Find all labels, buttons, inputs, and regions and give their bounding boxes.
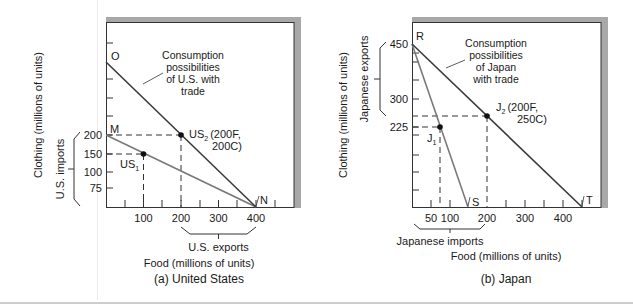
x-tick-labels-japan: 50 100 200 300 400 <box>425 212 572 224</box>
xlabel-us: Food (millions of units) <box>144 257 255 269</box>
svg-text:50: 50 <box>425 212 437 224</box>
bracket-us-exports <box>181 227 256 234</box>
frame-shadow-top <box>412 17 608 22</box>
panel-united-states: O M N US1 US2(200F, 200C) Consumption po… <box>32 17 301 286</box>
figure-canvas: O M N US1 US2(200F, 200C) Consumption po… <box>0 0 633 308</box>
ylabel-japan: Clothing (millions of units) <box>337 52 349 178</box>
svg-text:100: 100 <box>441 212 459 224</box>
svg-text:450: 450 <box>390 38 408 50</box>
svg-text:100: 100 <box>134 212 152 224</box>
svg-text:of Japan: of Japan <box>476 61 516 73</box>
svg-text:300: 300 <box>390 93 408 105</box>
svg-text:possibilities: possibilities <box>166 61 220 73</box>
label-point-r: R <box>416 30 424 42</box>
bracket-japanese-exports <box>380 42 386 116</box>
svg-text:400: 400 <box>554 212 572 224</box>
y-tick-labels-japan: 450 300 225 <box>390 38 408 133</box>
svg-text:Consumption: Consumption <box>465 37 527 49</box>
svg-text:Consumption: Consumption <box>162 49 224 61</box>
point-us2 <box>178 132 184 138</box>
label-us-imports: U.S. imports <box>54 138 66 199</box>
panel-japan: R S T J1 J2(200F, 250C) Consumption poss… <box>337 17 608 286</box>
xlabel-japan: Food (millions of units) <box>451 250 562 262</box>
svg-text:300: 300 <box>516 212 534 224</box>
point-j1 <box>437 124 443 130</box>
label-us2-coords: 200C) <box>212 140 242 152</box>
svg-text:200: 200 <box>172 212 190 224</box>
y-tick-labels-us: 200 150 100 75 <box>84 129 102 194</box>
label-point-n: N <box>260 194 268 206</box>
ylabel-us: Clothing (millions of units) <box>32 52 44 178</box>
bracket-japanese-imports <box>414 224 485 229</box>
label-point-o: O <box>111 50 120 62</box>
x-tick-labels-us: 100 200 300 400 <box>134 212 265 224</box>
caption-japan: (b) Japan <box>481 272 532 286</box>
svg-text:150: 150 <box>84 148 102 160</box>
point-us1 <box>141 151 147 157</box>
svg-text:with trade: with trade <box>472 73 519 85</box>
label-point-s: S <box>472 196 479 208</box>
label-us-exports: U.S. exports <box>188 241 249 253</box>
bracket-us-imports <box>74 132 80 206</box>
label-j2-coords: 250C) <box>517 113 547 125</box>
label-point-m: M <box>110 123 119 135</box>
svg-text:200: 200 <box>84 129 102 141</box>
label-japanese-exports: Japanese exports <box>358 35 370 122</box>
point-j2 <box>484 113 490 119</box>
label-point-t: T <box>586 194 593 206</box>
svg-text:75: 75 <box>90 182 102 194</box>
svg-text:trade: trade <box>181 85 205 97</box>
svg-text:of U.S. with: of U.S. with <box>166 73 220 85</box>
svg-text:225: 225 <box>390 121 408 133</box>
caption-us: (a) United States <box>154 272 244 286</box>
svg-text:300: 300 <box>209 212 227 224</box>
frame-shadow-right <box>294 17 301 208</box>
svg-text:possibilities: possibilities <box>469 49 523 61</box>
svg-text:400: 400 <box>247 212 265 224</box>
label-japanese-imports: Japanese imports <box>397 235 484 247</box>
frame-shadow-right <box>601 17 608 208</box>
svg-text:200: 200 <box>478 212 496 224</box>
frame-shadow-top <box>106 17 301 22</box>
svg-text:100: 100 <box>84 166 102 178</box>
